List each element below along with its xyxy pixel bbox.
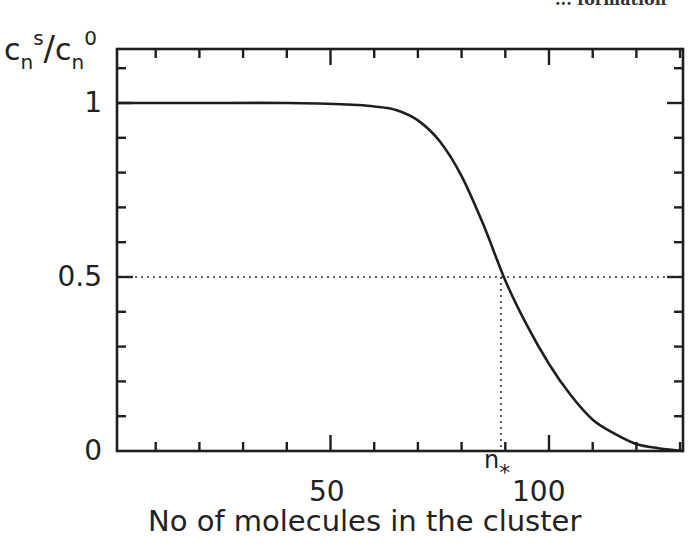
plot-frame bbox=[117, 49, 683, 451]
axis-ticks bbox=[117, 49, 683, 451]
y-tick-label-0: 0 bbox=[22, 434, 102, 467]
y-tick-label-0-5: 0.5 bbox=[22, 260, 102, 293]
line-chart bbox=[0, 0, 698, 555]
y-tick-label-1: 1 bbox=[22, 86, 102, 119]
x-axis-label: No of molecules in the cluster bbox=[148, 504, 581, 538]
n-star-label: n* bbox=[484, 446, 510, 474]
